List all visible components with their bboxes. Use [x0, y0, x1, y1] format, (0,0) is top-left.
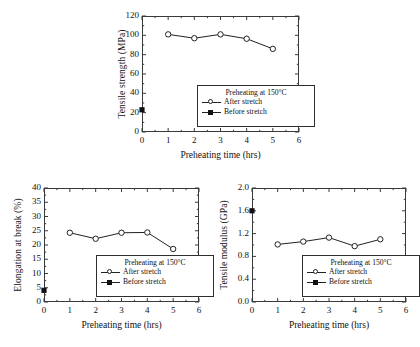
x-axis-tick-label: 1: [158, 135, 178, 145]
y-axis-title: Tensile modulus (GPa): [219, 188, 229, 302]
y-axis-tick-label: 10: [32, 268, 41, 278]
chart-legend: Preheating at 150°CAfter stretchBefore s…: [96, 255, 214, 297]
data-point-marker: [326, 235, 331, 240]
x-axis-tick-label: 0: [34, 305, 54, 315]
x-axis-tick-label: 3: [211, 135, 231, 145]
legend-item-before-stretch: Before stretch: [307, 277, 415, 287]
data-point-marker: [165, 32, 170, 37]
legend-item-label: Before stretch: [224, 107, 267, 117]
chart-legend: Preheating at 150°CAfter stretchBefore s…: [302, 255, 420, 297]
x-axis-tick-label: 3: [112, 305, 132, 315]
y-axis-tick-label: 30: [32, 211, 41, 221]
x-axis-tick-label: 4: [237, 135, 257, 145]
y-axis-tick-label: 15: [32, 253, 41, 263]
data-point-marker: [378, 237, 383, 242]
data-point-marker: [301, 239, 306, 244]
x-axis-tick-label: 4: [137, 305, 157, 315]
legend-item-label: After stretch: [329, 267, 367, 277]
x-axis-tick-label: 5: [370, 305, 390, 315]
legend-item-label: Before stretch: [123, 277, 166, 287]
x-axis-title: Preheating time (hrs): [252, 320, 406, 330]
y-axis-tick-label: 35: [32, 196, 41, 206]
y-axis-tick-label: 20: [32, 239, 41, 249]
data-point-marker: [119, 230, 124, 235]
data-point-marker: [170, 246, 175, 251]
x-axis-tick-label: 6: [289, 135, 309, 145]
y-axis-tick-label: 5: [37, 282, 42, 292]
x-axis-tick-label: 6: [396, 305, 416, 315]
chart-legend: Preheating at 150°CAfter stretchBefore s…: [197, 85, 315, 127]
filled-square-marker-icon: [307, 278, 326, 286]
y-axis-tick-label: 25: [32, 225, 41, 235]
legend-title: Preheating at 150°C: [307, 258, 415, 267]
y-axis-tick-label: 60: [130, 68, 139, 78]
legend-item-after-stretch: After stretch: [101, 267, 209, 277]
legend-title: Preheating at 150°C: [101, 258, 209, 267]
y-axis-tick-label: 0.8: [238, 250, 249, 260]
chart-panel-tensile-strength: 0204060801001200123456Tensile strength (…: [108, 4, 318, 172]
y-axis-tick-label: 1.6: [238, 205, 249, 215]
y-axis-tick-label: 120: [126, 10, 140, 20]
y-axis-title: Tensile strength (MPa): [117, 16, 127, 132]
x-axis-title: Preheating time (hrs): [142, 150, 299, 160]
x-axis-tick-label: 2: [184, 135, 204, 145]
data-point-marker: [352, 243, 357, 248]
data-point-marker: [244, 36, 249, 41]
x-axis-tick-label: 1: [268, 305, 288, 315]
data-point-marker: [41, 288, 46, 293]
open-circle-marker-icon: [307, 268, 326, 276]
x-axis-tick-label: 3: [319, 305, 339, 315]
legend-title: Preheating at 150°C: [202, 88, 310, 97]
legend-item-label: After stretch: [123, 267, 161, 277]
y-axis-tick-label: 1.2: [238, 228, 249, 238]
legend-item-after-stretch: After stretch: [307, 267, 415, 277]
x-axis-tick-label: 5: [163, 305, 183, 315]
data-point-marker: [270, 46, 275, 51]
chart-panel-tensile-modulus: 0.00.40.81.21.62.00123456Tensile modulus…: [210, 180, 415, 345]
y-axis-tick-label: 40: [130, 87, 139, 97]
legend-item-before-stretch: Before stretch: [202, 107, 310, 117]
chart-panel-elongation-at-break: 05101520253035400123456Elongation at bre…: [4, 180, 210, 345]
x-axis-tick-label: 1: [60, 305, 80, 315]
y-axis-tick-label: 20: [130, 107, 139, 117]
data-point-marker: [218, 32, 223, 37]
data-point-marker: [139, 107, 144, 112]
y-axis-tick-label: 100: [126, 29, 140, 39]
x-axis-title: Preheating time (hrs): [44, 320, 199, 330]
x-axis-tick-label: 0: [242, 305, 262, 315]
data-point-marker: [249, 208, 254, 213]
y-axis-tick-label: 2.0: [238, 182, 249, 192]
y-axis-tick-label: 0.4: [238, 273, 249, 283]
data-point-marker: [93, 236, 98, 241]
x-axis-tick-label: 4: [345, 305, 365, 315]
filled-square-marker-icon: [101, 278, 120, 286]
y-axis-tick-label: 40: [32, 182, 41, 192]
x-axis-tick-label: 2: [86, 305, 106, 315]
x-axis-tick-label: 0: [132, 135, 152, 145]
data-point-marker: [145, 230, 150, 235]
open-circle-marker-icon: [202, 98, 221, 106]
data-point-marker: [275, 242, 280, 247]
legend-item-after-stretch: After stretch: [202, 97, 310, 107]
data-point-marker: [192, 36, 197, 41]
y-axis-tick-label: 80: [130, 49, 139, 59]
filled-square-marker-icon: [202, 108, 221, 116]
x-axis-tick-label: 6: [189, 305, 209, 315]
x-axis-tick-label: 2: [293, 305, 313, 315]
legend-item-label: After stretch: [224, 97, 262, 107]
legend-item-before-stretch: Before stretch: [101, 277, 209, 287]
x-axis-tick-label: 5: [263, 135, 283, 145]
data-point-marker: [67, 230, 72, 235]
open-circle-marker-icon: [101, 268, 120, 276]
y-axis-title: Elongation at break (%): [13, 188, 23, 302]
legend-item-label: Before stretch: [329, 277, 372, 287]
